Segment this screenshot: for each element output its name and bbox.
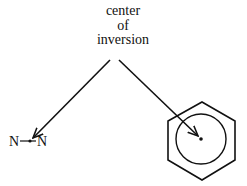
arrow-to-benzene [119, 60, 198, 136]
benzene-molecule [168, 102, 235, 180]
arrow-to-dinitrogen [33, 60, 110, 138]
atom-n-right: N [37, 134, 47, 149]
diagram-canvas: N N [0, 0, 247, 186]
inversion-center-point-n2 [28, 139, 31, 142]
atom-n-left: N [9, 134, 19, 149]
inversion-center-point-benzene [199, 137, 203, 141]
dinitrogen-molecule: N N [9, 134, 47, 149]
